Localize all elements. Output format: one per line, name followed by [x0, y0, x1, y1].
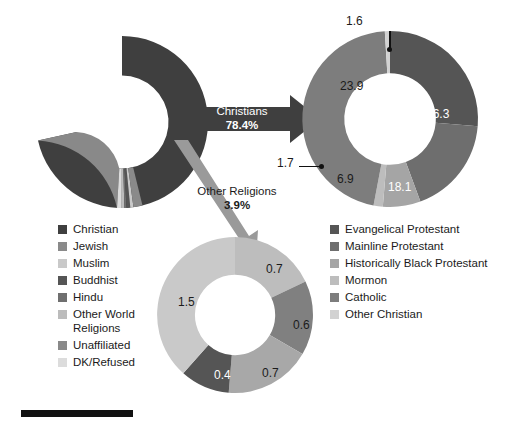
main-legend-swatch-icon-7 [58, 358, 67, 367]
christian-legend-label-3: Mormon [345, 273, 387, 287]
christian-legend-item-4[interactable]: Catholic [330, 290, 488, 304]
christian-legend-item-1[interactable]: Mainline Protestant [330, 239, 488, 253]
main-legend-label-7: DK/Refused [73, 355, 135, 369]
christians-callout-line1: Christians [192, 104, 292, 118]
main-legend-swatch-icon-1 [58, 242, 67, 251]
label-hindu-detail: 0.4 [214, 368, 231, 382]
main-legend-item-3[interactable]: Buddhist [58, 273, 135, 287]
main-legend-swatch-icon-2 [58, 259, 67, 268]
christian-legend-item-2[interactable]: Historically Black Protestant [330, 256, 488, 270]
main-legend-label-1: Jewish [73, 239, 108, 253]
main-legend-item-4[interactable]: Hindu [58, 290, 135, 304]
main-legend-label-4: Hindu [73, 290, 103, 304]
label-historically-black-protestant: 6.9 [337, 172, 354, 186]
label-mormon: 1.7 [277, 156, 294, 170]
christians-callout-line2: 78.4% [192, 118, 292, 132]
main-legend-label-6: Unaffiliated [73, 338, 130, 352]
label-mainline-protestant: 18.1 [388, 180, 411, 194]
christian-legend-label-5: Other Christian [345, 307, 422, 321]
leader-dot-mormon [319, 164, 324, 169]
main-legend-label-2: Muslim [73, 256, 109, 270]
main-legend-item-5[interactable]: Other World Religions [58, 307, 135, 335]
christian-legend-item-5[interactable]: Other Christian [330, 307, 488, 321]
label-other-christian: 1.6 [346, 14, 363, 28]
main-legend-swatch-icon-5 [58, 310, 67, 319]
main-legend-item-0[interactable]: Christian [58, 222, 135, 236]
christian-legend-label-2: Historically Black Protestant [345, 256, 488, 270]
christian-legend-swatch-icon-5 [330, 310, 339, 319]
main-legend-swatch-icon-4 [58, 293, 67, 302]
main-legend-item-7[interactable]: DK/Refused [58, 355, 135, 369]
main-legend-label-3: Buddhist [73, 273, 118, 287]
label-catholic: 23.9 [340, 79, 363, 93]
main-legend-item-1[interactable]: Jewish [58, 239, 135, 253]
christian-legend-swatch-icon-0 [330, 225, 339, 234]
christian-legend: Evangelical ProtestantMainline Protestan… [330, 222, 488, 324]
main-legend: ChristianJewishMuslimBuddhistHinduOther … [58, 222, 135, 372]
other-religions-donut-svg [152, 232, 322, 402]
footer-rule [21, 410, 133, 417]
label-muslim-detail: 0.6 [293, 318, 310, 332]
christian-legend-item-0[interactable]: Evangelical Protestant [330, 222, 488, 236]
main-legend-item-2[interactable]: Muslim [58, 256, 135, 270]
other-religions-callout-line1: Other Religions [182, 184, 292, 198]
leader-line-mormon [299, 166, 321, 168]
christian-legend-swatch-icon-2 [330, 259, 339, 268]
main-legend-swatch-icon-6 [58, 341, 67, 350]
christian-legend-swatch-icon-4 [330, 293, 339, 302]
christian-legend-item-3[interactable]: Mormon [330, 273, 488, 287]
christian-legend-label-1: Mainline Protestant [345, 239, 443, 253]
main-legend-swatch-icon-3 [58, 276, 67, 285]
main-legend-label-0: Christian [73, 222, 118, 236]
other-religions-callout-label: Other Religions 3.9% [182, 184, 292, 212]
label-other-world-religions-detail: 1.5 [178, 295, 195, 309]
other-religions-callout-line2: 3.9% [182, 198, 292, 212]
label-evangelical-protestant: 26.3 [426, 107, 449, 121]
infographic-canvas: Christians 78.4% Other Religions 3.9% [0, 0, 505, 423]
christians-callout-label: Christians 78.4% [192, 104, 292, 132]
christian-legend-label-0: Evangelical Protestant [345, 222, 459, 236]
other-religions-donut-chart [152, 232, 322, 402]
main-legend-item-6[interactable]: Unaffiliated [58, 338, 135, 352]
slice-other-world-religions-detail[interactable] [157, 237, 235, 373]
slice-mainline-protestant[interactable] [406, 123, 478, 202]
label-buddhist-detail: 0.7 [262, 366, 279, 380]
leader-dot-other-christian [387, 47, 392, 52]
main-legend-label-5: Other World Religions [73, 307, 135, 335]
christian-legend-label-4: Catholic [345, 290, 387, 304]
christian-legend-swatch-icon-1 [330, 242, 339, 251]
label-jewish-detail: 0.7 [266, 262, 283, 276]
christian-legend-swatch-icon-3 [330, 276, 339, 285]
main-legend-swatch-icon-0 [58, 225, 67, 234]
